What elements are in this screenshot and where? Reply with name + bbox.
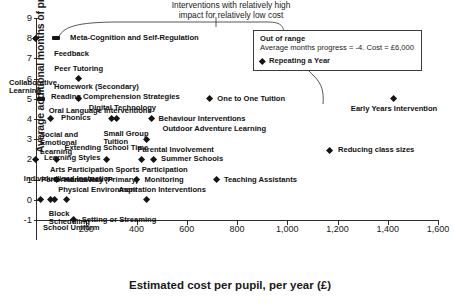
x-tick-label: 1,000 (267, 224, 307, 234)
out-of-range-item-label: Repeating a Year (269, 56, 330, 65)
out-of-range-legend: Out of range Average months progress = -… (253, 30, 422, 71)
y-tick (34, 139, 39, 140)
x-tick-label: 600 (167, 224, 207, 234)
y-tick (34, 220, 39, 221)
data-point-label: Homework (Secondary) (54, 83, 139, 91)
y-tick-label: -1 (19, 215, 32, 224)
data-point-label: Setting or Streaming (82, 216, 157, 224)
x-tick-label: 1,600 (418, 224, 454, 234)
data-point-label: Behaviour Interventions (159, 115, 246, 123)
y-tick-label: 3 (19, 134, 32, 143)
y-tick (34, 58, 39, 59)
x-tick-label: 800 (217, 224, 257, 234)
y-tick (34, 119, 39, 120)
y-tick-label: 9 (19, 13, 32, 22)
data-point-label: Outdoor Adventure Learning (163, 125, 267, 133)
data-point-label: Early Years Intervention (351, 105, 437, 113)
data-point-label: Sports Participation (116, 166, 188, 174)
data-point-label: One to One Tuition (217, 95, 285, 103)
y-axis-line (36, 18, 37, 240)
data-point-label: Monitoring (145, 175, 184, 183)
data-point-label: Aspiration Interventions (119, 186, 206, 194)
data-point-label: School Uniform (43, 224, 100, 232)
y-tick-label: 0 (19, 195, 32, 204)
out-of-range-heading: Out of range (260, 34, 416, 43)
data-point-label: Digital Technology (89, 104, 156, 112)
out-of-range-detail: Average months progress = -4. Cost = £6,… (260, 43, 416, 53)
y-tick (34, 18, 39, 19)
data-point-label: Parental Involvement (138, 146, 214, 154)
x-tick-label: 400 (117, 224, 157, 234)
data-point-label: Summer Schools (161, 155, 223, 163)
data-point-label: Reading Comprehension Strategies (51, 93, 180, 101)
y-tick-label: 2 (19, 154, 32, 163)
data-point-label: Teaching Assistants (224, 175, 297, 183)
y-tick-label: 4 (19, 114, 32, 123)
data-point-label: Peer Tutoring (54, 65, 103, 73)
data-point-label: Extending School Time (64, 144, 148, 152)
out-of-range-item: Repeating a Year (260, 56, 416, 66)
x-axis-title: Estimated cost per pupil, per year (£) (60, 279, 400, 291)
data-point-label: Reducing class sizes (338, 146, 414, 154)
y-tick-label: 7 (19, 53, 32, 62)
data-point-label: Feedback (54, 50, 89, 58)
x-tick-label: 1,400 (368, 224, 408, 234)
y-tick-label: 8 (19, 33, 32, 42)
data-point-label: Phonics (61, 114, 91, 122)
data-point-label: Performance Pay (41, 176, 103, 184)
diamond-marker-icon (259, 58, 265, 64)
data-point-label: Meta-Cognition and Self-Regulation (70, 34, 199, 42)
x-tick-label: 1,200 (318, 224, 358, 234)
